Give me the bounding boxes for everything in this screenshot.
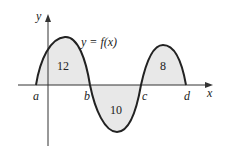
point-c-label: c (142, 89, 148, 103)
point-d-label: d (184, 89, 191, 103)
point-b-label: b (84, 89, 90, 103)
region-c-d-area: 8 (160, 59, 166, 73)
y-axis-arrow-icon (45, 14, 51, 22)
y-axis-label: y (35, 9, 42, 23)
area-diagram: y x y = f(x) a b c d 12 10 8 (0, 0, 227, 153)
region-a-b-area: 12 (57, 59, 69, 73)
function-label: y = f(x) (80, 35, 117, 49)
x-axis-label: x (206, 86, 213, 100)
point-a-label: a (33, 89, 39, 103)
region-b-c-area: 10 (110, 103, 122, 117)
